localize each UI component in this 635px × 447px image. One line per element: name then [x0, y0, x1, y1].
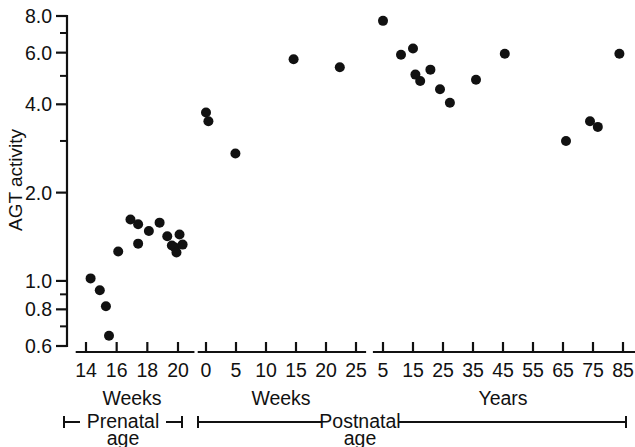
y-axis-title: AGT activity: [5, 128, 26, 231]
x-axis-tick-label: 65: [552, 359, 574, 381]
data-point: [203, 116, 213, 126]
data-point: [561, 136, 571, 146]
x-axis-tick-label: 5: [378, 359, 389, 381]
x-axis-tick-label: 20: [315, 359, 337, 381]
data-point: [230, 148, 240, 158]
data-point: [175, 229, 185, 239]
x-axis-tick-label: 25: [432, 359, 454, 381]
y-axis-tick-label: 0.8: [25, 298, 52, 320]
x-axis-tick-label: 16: [106, 359, 128, 381]
data-point: [155, 218, 165, 228]
x-axis-tick-label: 15: [402, 359, 424, 381]
data-point: [415, 76, 425, 86]
data-point: [614, 49, 624, 59]
x-axis-tick-label: 55: [522, 359, 544, 381]
x-axis-tick-label: 85: [612, 359, 634, 381]
x-axis-tick-label: 20: [167, 359, 189, 381]
data-point: [113, 246, 123, 256]
data-point: [101, 301, 111, 311]
group-sublabel-prenatal: age: [107, 427, 140, 447]
data-point: [425, 65, 435, 75]
data-point: [86, 273, 96, 283]
data-point: [289, 54, 299, 64]
data-point: [335, 62, 345, 72]
data-point: [178, 240, 188, 250]
data-point: [133, 219, 143, 229]
x-axis-tick-label: 75: [582, 359, 604, 381]
data-point: [593, 122, 603, 132]
x-axis-tick-label: 25: [345, 359, 367, 381]
data-point: [435, 84, 445, 94]
data-point: [162, 231, 172, 241]
scatter-plot-svg: 8.06.04.02.01.00.80.6 AGT activity 14161…: [0, 0, 635, 447]
x-axis-tick-label: 14: [75, 359, 97, 381]
data-point: [378, 16, 388, 26]
y-axis-tick-label: 0.6: [25, 335, 52, 357]
x-axis-tick-label: 18: [136, 359, 158, 381]
x-axis-unit-label: Weeks: [251, 387, 310, 409]
chart-figure: 8.06.04.02.01.00.80.6 AGT activity 14161…: [0, 0, 635, 447]
x-axis-tick-label: 5: [231, 359, 242, 381]
data-point: [500, 49, 510, 59]
data-point: [95, 285, 105, 295]
data-point: [171, 247, 181, 257]
x-axis-unit-label: Years: [478, 387, 527, 409]
x-axis-tick-label: 45: [492, 359, 514, 381]
group-sublabel-postnatal: age: [344, 427, 377, 447]
y-axis-tick-label: 1.0: [25, 270, 52, 292]
x-axis-tick-label: 35: [462, 359, 484, 381]
y-axis-tick-label: 2.0: [25, 182, 52, 204]
data-point: [144, 226, 154, 236]
data-point: [408, 43, 418, 53]
data-point: [133, 239, 143, 249]
x-axis-tick-label: 0: [201, 359, 212, 381]
data-point: [471, 75, 481, 85]
x-axis-tick-label: 15: [285, 359, 307, 381]
data-point: [201, 108, 211, 118]
y-axis-tick-label: 4.0: [25, 93, 52, 115]
data-point: [396, 50, 406, 60]
y-axis-tick-label: 6.0: [25, 42, 52, 64]
x-axis-tick-label: 10: [255, 359, 277, 381]
data-point: [445, 98, 455, 108]
y-axis-title-label: AGT activity: [5, 128, 26, 231]
x-axis-unit-label: Weeks: [102, 387, 161, 409]
y-axis-tick-label: 8.0: [25, 5, 52, 27]
data-point: [104, 331, 114, 341]
